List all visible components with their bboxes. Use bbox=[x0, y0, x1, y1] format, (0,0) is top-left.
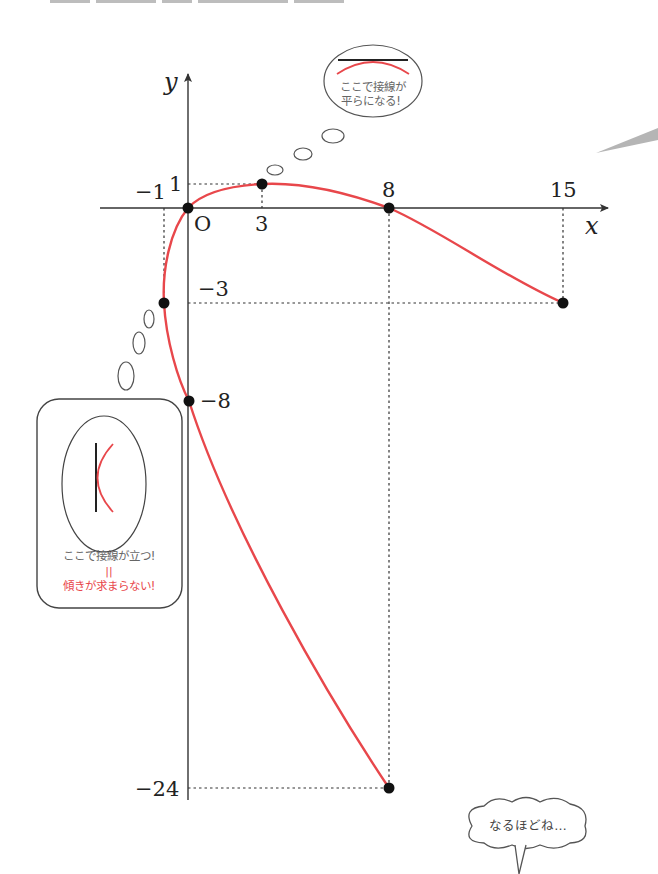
tick-x-15: 15 bbox=[550, 178, 577, 202]
tick-y-neg24: −24 bbox=[135, 777, 179, 801]
parametric-curve-figure: y x O −1 1 3 8 15 −3 −8 −24 ここで接線が 平らになる… bbox=[0, 0, 658, 874]
tick-x-neg1: −1 bbox=[135, 180, 166, 204]
point-origin bbox=[183, 203, 194, 214]
guide-lines bbox=[164, 184, 563, 788]
origin-label: O bbox=[194, 212, 211, 236]
left-bubble-line2: 傾きが求まらない! bbox=[63, 579, 156, 593]
tick-y-neg3: −3 bbox=[198, 277, 229, 301]
tick-y-neg8: −8 bbox=[200, 389, 231, 413]
point-0-neg8 bbox=[184, 396, 195, 407]
left-thought-bubble: ここで接線が立つ! || 傾きが求まらない! bbox=[37, 310, 182, 608]
tick-y-1: 1 bbox=[169, 172, 182, 196]
marked-points bbox=[159, 179, 569, 794]
point-15-neg3 bbox=[558, 298, 569, 309]
tick-x-8: 8 bbox=[382, 178, 395, 202]
point-3-1 bbox=[257, 179, 268, 190]
left-bubble-equals: || bbox=[105, 565, 112, 578]
point-8-neg24 bbox=[384, 783, 395, 794]
curve bbox=[164, 184, 563, 788]
point-neg1-neg3 bbox=[159, 298, 170, 309]
left-bubble-line1: ここで接線が立つ! bbox=[63, 549, 156, 563]
top-bubble-line1: ここで接線が bbox=[340, 80, 407, 94]
y-axis-label: y bbox=[163, 68, 178, 96]
decorative-wedge bbox=[596, 128, 658, 153]
top-bubble-line2: 平らになる! bbox=[341, 94, 401, 108]
top-thought-bubble: ここで接線が 平らになる! bbox=[267, 45, 422, 175]
speech-bubble-text: なるほどね… bbox=[489, 818, 567, 833]
speech-bubble: なるほどね… bbox=[469, 798, 586, 874]
tick-x-3: 3 bbox=[255, 212, 268, 236]
x-axis-label: x bbox=[585, 212, 599, 240]
point-8-0 bbox=[384, 203, 395, 214]
